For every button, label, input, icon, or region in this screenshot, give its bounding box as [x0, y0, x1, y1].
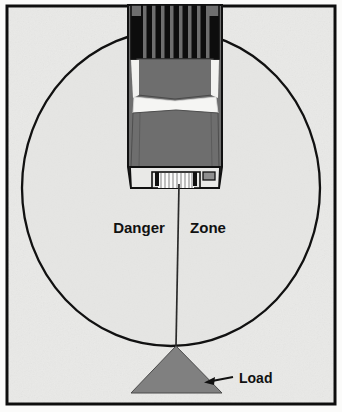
danger-zone-figure: Danger Zone Load [0, 0, 342, 412]
danger-label: Danger [113, 219, 165, 236]
crane-truck [128, 5, 222, 188]
cab-roof [137, 59, 213, 99]
diagram-canvas: Danger Zone Load [0, 0, 342, 412]
cab-side-highlight-right [211, 60, 219, 98]
bumper-control-box [203, 172, 215, 180]
load-label: Load [239, 370, 272, 386]
winch-drum [155, 172, 197, 188]
truck-hood [131, 110, 219, 167]
zone-label: Zone [190, 219, 226, 236]
